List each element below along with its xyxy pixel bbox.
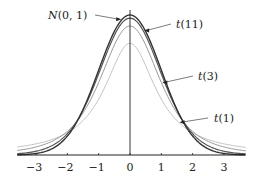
x-tick-label: 3: [220, 161, 227, 174]
annotation-leader: [182, 118, 208, 122]
curves-group: [17, 15, 245, 155]
x-ticks: −3−2−10123: [26, 153, 227, 174]
label-t3: t(3): [198, 70, 218, 83]
annotations: [95, 15, 208, 124]
x-tick-label: 1: [158, 161, 165, 174]
curve-t-11: [17, 18, 245, 154]
curve-t-1: [17, 43, 245, 147]
x-tick-label: 2: [189, 161, 196, 174]
curve-t-3: [17, 26, 245, 151]
label-normal: N(0, 1): [47, 9, 87, 22]
annotation-leader: [164, 76, 193, 82]
label-t1: t(1): [214, 112, 234, 125]
annotation-leader: [146, 24, 171, 31]
curve-n-0-1: [17, 15, 245, 155]
label-t11: t(11): [176, 18, 203, 31]
x-tick-label: 0: [127, 161, 134, 174]
x-tick-label: −1: [89, 161, 105, 174]
distribution-chart: −3−2−10123 N(0, 1) t(11) t(3) t(1): [0, 0, 259, 181]
x-tick-label: −2: [57, 161, 73, 174]
x-tick-label: −3: [26, 161, 42, 174]
annotation-leader: [95, 15, 119, 19]
